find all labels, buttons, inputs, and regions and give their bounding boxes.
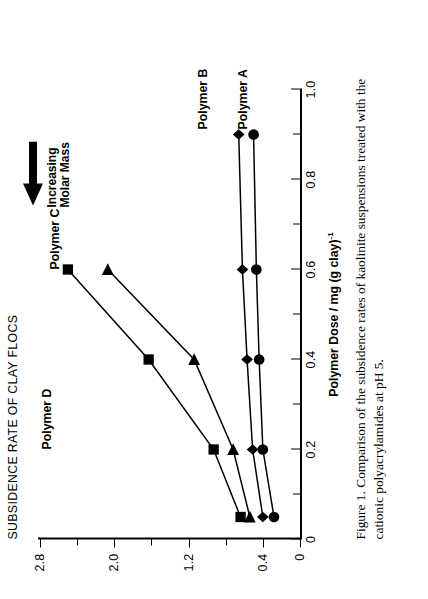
chart-plot-area: SUBSIDENCE RATE OF CLAY FLOCS 0 0.2 0.4 … [0,0,330,599]
data-point-polymer-b-0 [257,511,269,522]
series-line-polymer-b [239,134,263,517]
data-point-polymer-b-1 [247,444,259,455]
arrow-label-line2: Molar Mass [59,142,72,207]
data-point-polymer-c-0 [244,510,256,522]
rotated-figure-stage: SUBSIDENCE RATE OF CLAY FLOCS 0 0.2 0.4 … [0,0,428,599]
series-line-polymer-d [68,269,241,517]
increasing-molar-mass-arrow-icon [22,141,44,207]
data-point-polymer-d-2 [143,354,153,364]
arrow-label-line1: Increasing [46,142,59,207]
data-point-polymer-d-3 [63,264,73,274]
figure-caption: Figure 1. Comparison of the subsidence r… [352,69,388,539]
annotation-polymer-c: Polymer C [48,208,62,269]
increasing-molar-mass-label: Increasing Molar Mass [46,142,73,207]
data-point-polymer-d-1 [208,444,218,454]
data-point-polymer-b-3 [237,264,249,275]
series-line-polymer-a [254,134,274,517]
annotation-polymer-b: Polymer B [196,68,210,129]
annotation-polymer-d: Polymer D [40,388,54,449]
chart-series-layer [0,0,330,599]
data-point-polymer-d-0 [235,511,245,521]
series-line-polymer-c [108,269,250,517]
data-point-polymer-b-4 [233,129,245,140]
annotation-polymer-a: Polymer A [236,69,250,129]
data-point-polymer-a-1 [258,444,269,455]
data-point-polymer-a-3 [251,264,262,275]
data-point-polymer-a-0 [269,511,280,522]
data-point-polymer-c-3 [102,263,114,275]
data-point-polymer-a-4 [248,129,259,140]
data-point-polymer-c-1 [227,443,239,455]
data-point-polymer-a-2 [254,354,265,365]
data-point-polymer-b-2 [241,354,253,365]
